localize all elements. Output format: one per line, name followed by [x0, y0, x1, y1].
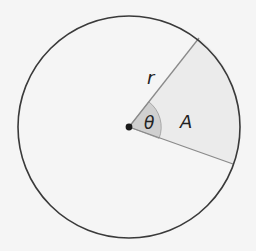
radius-label: r: [147, 67, 156, 88]
center-point: [126, 124, 133, 131]
sector-diagram: r θ A: [0, 0, 256, 251]
diagram-svg: r θ A: [0, 0, 256, 251]
angle-label: θ: [144, 113, 155, 133]
area-label: A: [179, 111, 192, 132]
